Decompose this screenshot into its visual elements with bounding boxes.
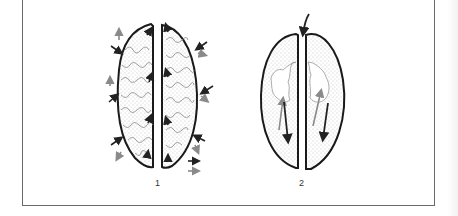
- page-edge-shadow: [448, 0, 458, 216]
- panel-1: 1: [109, 24, 213, 188]
- panel-label-1: 1: [155, 178, 160, 188]
- panel-label-2: 2: [299, 178, 304, 188]
- diagram-canvas: 1 2: [0, 0, 458, 216]
- seed-half-left-1: [118, 24, 153, 167]
- seed-half-left-2: [261, 34, 298, 168]
- seed-half-right-2: [306, 34, 344, 169]
- panel-2: 2: [261, 14, 344, 188]
